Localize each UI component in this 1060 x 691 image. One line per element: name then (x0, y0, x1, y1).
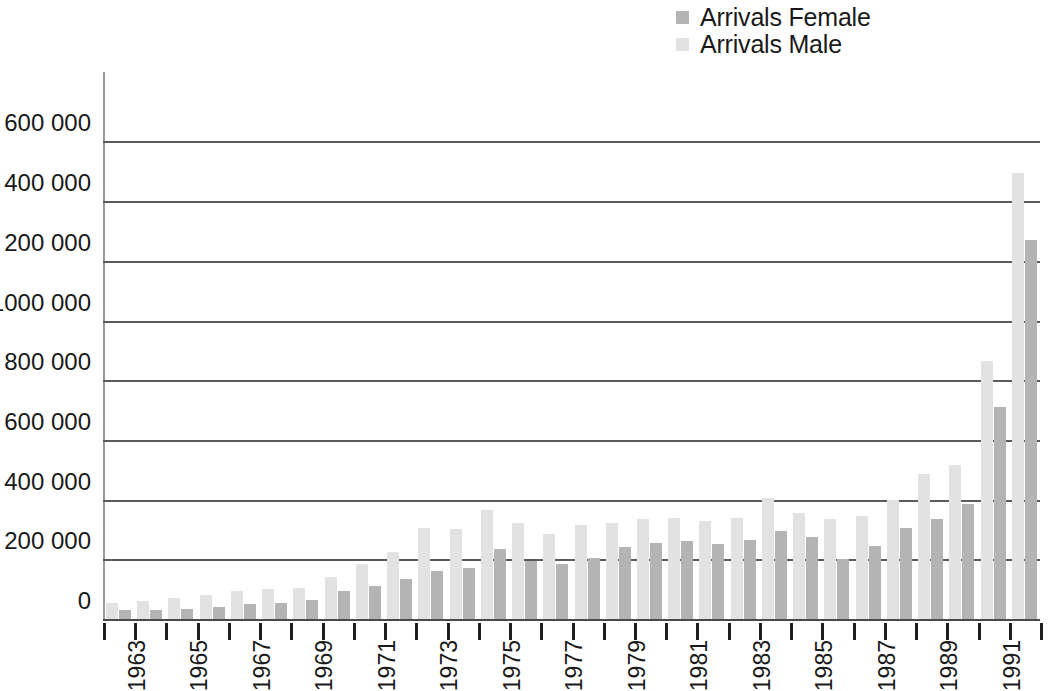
chart-legend: Arrivals Female Arrivals Male (676, 4, 1056, 58)
bar-group (447, 72, 478, 619)
bar-male-1976 (512, 523, 524, 619)
bar-group (821, 72, 852, 619)
x-axis-tick-label: 1981 (688, 640, 711, 691)
bar-group (415, 72, 446, 619)
bar-group (634, 72, 665, 619)
bar-male-1968 (262, 589, 274, 619)
bar-female-1982 (712, 544, 724, 619)
x-axis-tick (322, 623, 325, 640)
x-axis-tick (978, 623, 981, 640)
x-axis-tick (946, 623, 949, 640)
bar-male-1967 (231, 591, 243, 619)
bar-female-1975 (494, 549, 506, 619)
x-axis-tick-label: 1983 (751, 640, 774, 691)
x-axis-tick (790, 623, 793, 640)
legend-label-female: Arrivals Female (700, 4, 871, 31)
x-axis-tick-label: 1989 (938, 640, 961, 691)
plot-area (103, 72, 1040, 621)
bar-male-1977 (543, 534, 555, 619)
legend-entry-arrivals-male: Arrivals Male (676, 31, 1056, 58)
bar-female-1989 (931, 519, 943, 619)
x-axis-tick-label: 1979 (626, 640, 649, 691)
y-axis-tick-label: 800 000 (4, 350, 91, 374)
x-axis-tick-label: 1967 (251, 640, 274, 691)
bar-group (1009, 72, 1040, 619)
x-axis-tick-labels: 1963196519671969197119731975197719791981… (103, 640, 1040, 688)
legend-entry-arrivals-female: Arrivals Female (676, 4, 1056, 31)
x-axis-tick-label: 1965 (188, 640, 211, 691)
bar-female-1977 (556, 564, 568, 619)
bar-group (884, 72, 915, 619)
bar-female-1986 (837, 559, 849, 619)
bar-group (540, 72, 571, 619)
bar-female-1985 (806, 537, 818, 619)
bar-group (790, 72, 821, 619)
x-axis-tick (103, 623, 106, 640)
bar-male-1972 (387, 552, 399, 619)
x-axis-tick (134, 623, 137, 640)
x-axis-tick (665, 623, 668, 640)
x-axis-tick (540, 623, 543, 640)
bar-female-1992 (1025, 240, 1037, 619)
bars-layer (103, 72, 1040, 619)
bar-female-1979 (619, 547, 631, 619)
x-axis-tick (821, 623, 824, 640)
bar-group (353, 72, 384, 619)
bar-female-1972 (400, 579, 412, 619)
bar-male-1971 (356, 564, 368, 619)
bar-male-1983 (731, 518, 743, 619)
x-axis-ticks (103, 623, 1040, 641)
y-axis-tick-label: 1 600 000 (0, 111, 91, 135)
x-axis-tick (572, 623, 575, 640)
y-axis-tick-label: 0 (78, 589, 91, 613)
x-axis-tick (259, 623, 262, 640)
bar-male-1989 (918, 474, 930, 619)
bar-female-1965 (181, 609, 193, 619)
bar-group (322, 72, 353, 619)
bar-female-1964 (150, 610, 162, 619)
legend-swatch-female (676, 11, 689, 24)
bar-group (384, 72, 415, 619)
x-axis-tick (696, 623, 699, 640)
bar-male-1965 (168, 598, 180, 619)
bar-male-1980 (637, 519, 649, 619)
x-axis-tick (853, 623, 856, 640)
bar-group (134, 72, 165, 619)
bar-group (228, 72, 259, 619)
bar-group (509, 72, 540, 619)
legend-label-male: Arrivals Male (700, 31, 842, 58)
bar-female-1990 (962, 504, 974, 619)
bar-male-1969 (293, 588, 305, 619)
bar-male-1974 (450, 529, 462, 619)
bar-male-1986 (824, 519, 836, 619)
x-axis-tick-label: 1975 (501, 640, 524, 691)
legend-swatch-male (676, 38, 689, 51)
bar-male-1964 (137, 601, 149, 619)
x-axis-tick (603, 623, 606, 640)
y-axis-tick-label: 1000 000 (0, 291, 91, 315)
bar-male-1973 (418, 528, 430, 619)
y-axis-tick-label: 400 000 (4, 470, 91, 494)
bar-group (197, 72, 228, 619)
bar-group (946, 72, 977, 619)
bar-female-1978 (588, 558, 600, 619)
bar-female-1988 (900, 528, 912, 619)
bar-female-1991 (994, 407, 1006, 619)
bar-group (665, 72, 696, 619)
bar-group (259, 72, 290, 619)
bar-male-1981 (668, 518, 680, 619)
x-axis-tick (384, 623, 387, 640)
x-axis-tick (728, 623, 731, 640)
x-axis-tick (415, 623, 418, 640)
bar-female-1971 (369, 586, 381, 619)
x-axis-tick-label: 1987 (876, 640, 899, 691)
bar-female-1973 (431, 571, 443, 619)
y-axis-tick-label: 200 000 (4, 529, 91, 553)
bar-male-1984 (762, 498, 774, 619)
y-axis-tick-labels: 1 600 0001 400 0001 200 0001000 000800 0… (0, 0, 99, 688)
x-axis-tick (165, 623, 168, 640)
bar-group (853, 72, 884, 619)
x-axis-tick (915, 623, 918, 640)
bar-male-1963 (106, 603, 118, 619)
